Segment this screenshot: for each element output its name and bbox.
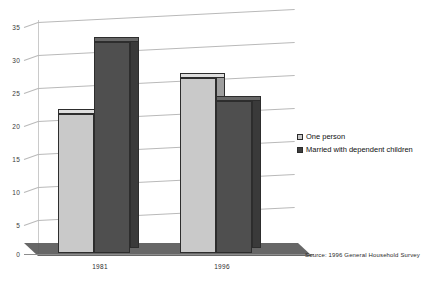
- bar-side-face: [130, 37, 139, 248]
- legend-item-one-person[interactable]: One person: [297, 131, 413, 142]
- bar-front-face: [216, 101, 252, 253]
- y-axis-tick-label: 25: [4, 90, 20, 97]
- y-axis-tick-stub: [24, 22, 38, 28]
- bar-front-face: [58, 114, 94, 253]
- gridline: [38, 42, 295, 56]
- bar-side-face: [252, 96, 261, 248]
- chart-floor-edge: [24, 254, 314, 255]
- bar[interactable]: [94, 37, 139, 253]
- legend-item-married-with-dependent-children[interactable]: Married with dependent children: [297, 144, 413, 155]
- bar-front-face: [180, 78, 216, 253]
- y-axis-tick-stub: [24, 220, 38, 226]
- legend-item-label: Married with dependent children: [306, 144, 413, 155]
- legend-item-label: One person: [306, 131, 345, 142]
- y-axis-tick-label: 30: [4, 57, 20, 64]
- y-axis-tick-label: 10: [4, 189, 20, 196]
- y-axis-tick-label: 35: [4, 24, 20, 31]
- y-axis-tick-stub: [24, 55, 38, 61]
- y-axis-tick-label: 5: [4, 222, 20, 229]
- x-axis-category-label: 1996: [192, 263, 252, 270]
- bar[interactable]: [216, 96, 261, 253]
- gridline: [38, 9, 295, 23]
- y-axis-tick-label: 20: [4, 123, 20, 130]
- y-axis-tick-label: 0: [4, 251, 20, 258]
- x-axis-category-label: 1981: [70, 263, 130, 270]
- y-axis-tick-stub: [24, 154, 38, 160]
- legend-swatch-icon: [297, 134, 303, 140]
- y-axis-tick-label: 15: [4, 156, 20, 163]
- y-axis-tick-stub: [24, 88, 38, 94]
- legend: One person Married with dependent childr…: [297, 131, 413, 157]
- y-axis-tick-stub: [24, 187, 38, 193]
- legend-swatch-icon: [297, 147, 303, 153]
- bar-front-face: [94, 42, 130, 253]
- bar-chart: 05101520253035 19811996 One person Marri…: [0, 0, 440, 282]
- source-note: Source: 1996 General Household Survey: [305, 252, 420, 258]
- gridline: [38, 75, 295, 89]
- y-axis-tick-stub: [24, 121, 38, 127]
